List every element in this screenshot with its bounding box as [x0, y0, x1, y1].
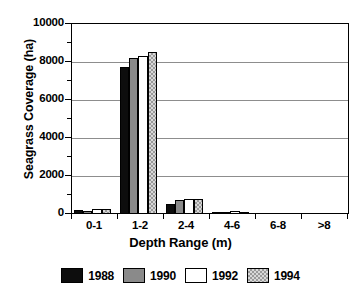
bar-group	[120, 24, 157, 214]
x-axis-tick	[347, 213, 348, 219]
bar-group	[212, 24, 249, 214]
plot-area	[71, 23, 349, 214]
legend-item-1990: 1990	[123, 268, 185, 283]
bar-1990-2-4	[175, 200, 184, 214]
legend-item-1988: 1988	[61, 268, 123, 283]
legend-swatch-1992	[185, 268, 207, 283]
bar-group	[74, 24, 111, 214]
bar-group	[304, 24, 341, 214]
legend-label-1994: 1994	[274, 269, 300, 283]
bar-1994-1-2	[148, 52, 157, 214]
legend-label-1988: 1988	[88, 269, 114, 283]
bar-1990-1-2	[129, 58, 138, 214]
legend-swatch-1990	[123, 268, 145, 283]
y-axis-tick-marks	[56, 0, 71, 305]
bar-1992-2-4	[184, 199, 193, 214]
seagrass-coverage-bar-chart: Seagrass Coverage (ha) 02000400060008000…	[0, 0, 361, 305]
legend-label-1992: 1992	[212, 269, 238, 283]
bar-1992-1-2	[138, 56, 147, 214]
bar-group	[166, 24, 203, 214]
legend-swatch-1988	[61, 268, 83, 283]
legend-label-1990: 1990	[150, 269, 176, 283]
legend: 1988199019921994	[0, 268, 361, 283]
x-axis-title: Depth Range (m)	[0, 235, 361, 250]
plot-inner	[72, 24, 348, 214]
bar-group	[258, 24, 295, 214]
bar-1994-2-4	[194, 199, 203, 214]
legend-swatch-1994	[247, 268, 269, 283]
legend-item-1992: 1992	[185, 268, 247, 283]
legend-item-1994: 1994	[247, 268, 300, 283]
bar-1988-1-2	[120, 67, 129, 214]
x-axis-tick-label: >8	[294, 219, 354, 231]
